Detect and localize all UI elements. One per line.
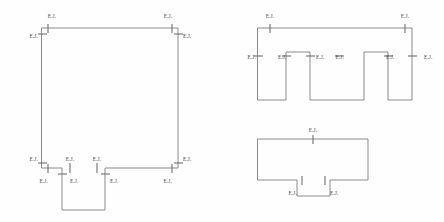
expansion-joint-label: E.J. [40, 178, 49, 184]
expansion-joint-label: E.J. [401, 13, 410, 19]
expansion-joint-label: E.J. [30, 33, 39, 39]
figure-bottom-right-joint-ticks [302, 135, 325, 185]
expansion-joint-label: E.J. [266, 13, 275, 19]
expansion-joint-label: E.J. [183, 33, 192, 39]
expansion-joint-label: E.J. [278, 54, 287, 60]
expansion-joint-label: E.J. [386, 54, 395, 60]
figure-bottom-right-outline [258, 139, 368, 196]
expansion-joint-label: E.J. [164, 13, 173, 19]
expansion-joint-label: E.J. [289, 190, 298, 196]
expansion-joint-label: E.J. [248, 54, 257, 60]
expansion-joint-label: E.J. [330, 190, 339, 196]
figure-top-right-outline [258, 28, 412, 100]
expansion-joint-label: E.J. [309, 127, 318, 133]
expansion-joint-label: E.J. [93, 156, 102, 162]
expansion-joint-label: E.J. [164, 178, 173, 184]
expansion-joint-label: E.J. [48, 13, 57, 19]
expansion-joint-label: E.J. [316, 54, 325, 60]
expansion-joint-label: E.J. [66, 156, 75, 162]
figure-top-right-joint-ticks [254, 24, 417, 56]
expansion-joint-label: E.J. [336, 54, 345, 60]
figure-left-joint-ticks [38, 24, 183, 174]
expansion-joint-label: E.J. [424, 54, 433, 60]
drawing-canvas [0, 0, 444, 222]
expansion-joint-label: E.J. [183, 156, 192, 162]
expansion-joint-label: E.J. [30, 156, 39, 162]
expansion-joint-label: E.J. [110, 178, 119, 184]
drawing-sheet: E.J.E.J.E.J.E.J.E.J.E.J.E.J.E.J.E.J.E.J.… [0, 0, 444, 222]
expansion-joint-label: E.J. [70, 178, 79, 184]
